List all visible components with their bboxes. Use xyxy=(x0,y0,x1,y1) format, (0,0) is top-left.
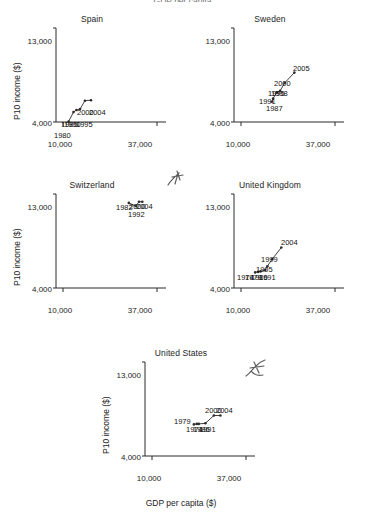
axis-label-x: GDP per capita ($) xyxy=(101,498,261,508)
x-tick-right-switzerland: 37,000 xyxy=(117,306,163,315)
y-tick-top-switzerland: 13,000 xyxy=(6,203,52,212)
y-tick-top-spain: 13,000 xyxy=(6,37,52,46)
y-tick-top-us: 13,000 xyxy=(95,371,141,380)
point-label-sweden-1991: 1991 xyxy=(259,98,276,106)
axis-label-y-row3: P10 income ($) xyxy=(101,396,111,454)
point-label-us-1979: 1979 xyxy=(174,418,191,426)
x-tick-right-uk: 37,000 xyxy=(295,306,341,315)
y-tick-top-uk: 13,000 xyxy=(184,203,230,212)
x-tick-left-sweden: 10,000 xyxy=(215,140,261,149)
figure-scatter-matrix: GDP per capita Spain 13,000 4,000 10,000… xyxy=(0,0,365,520)
plot-area-uk: 1974 1979 1986 1991 1995 1999 2004 xyxy=(234,194,344,298)
y-tick-bottom-sweden: 4,000 xyxy=(184,119,230,128)
point-label-uk-1999: 1999 xyxy=(261,256,278,264)
point-label-spain-1980: 1980 xyxy=(54,132,71,140)
panel-spain: Spain 13,000 4,000 10,000 37,000 1980 19… xyxy=(12,14,172,154)
x-tick-right-us: 37,000 xyxy=(206,474,252,483)
y-tick-bottom-spain: 4,000 xyxy=(6,119,52,128)
point-label-sweden-1987: 1987 xyxy=(266,105,283,113)
panel-title-united-states: United States xyxy=(101,348,261,358)
plot-area-spain: 1980 1985 1990 1995 2000 2004 xyxy=(56,28,166,132)
x-tick-right-spain: 37,000 xyxy=(117,140,163,149)
panel-sweden: Sweden 13,000 4,000 10,000 37,000 1987 1… xyxy=(190,14,350,154)
point-label-sweden-1998: 1998 xyxy=(271,90,288,98)
point-label-uk-1991: 1991 xyxy=(259,274,276,282)
y-tick-bottom-uk: 4,000 xyxy=(184,285,230,294)
point-label-spain-2004: 2004 xyxy=(89,109,106,117)
point-label-uk-2004: 2004 xyxy=(281,239,298,247)
plot-area-sweden: 1987 1991 1995 1998 2000 2005 xyxy=(234,28,344,132)
y-tick-bottom-us: 4,000 xyxy=(95,453,141,462)
point-label-uk-1995: 1995 xyxy=(256,266,273,274)
axis-label-y-row2: P10 income ($) xyxy=(12,228,22,286)
panel-title-united-kingdom: United Kingdom xyxy=(190,180,350,190)
point-label-switzerland-1992: 1992 xyxy=(128,211,145,219)
point-label-sweden-2005: 2005 xyxy=(293,65,310,73)
point-label-spain-1995: 1995 xyxy=(76,121,93,129)
point-label-us-2004: 2004 xyxy=(216,407,233,415)
point-label-switzerland-2004: 2004 xyxy=(136,203,153,211)
panel-united-kingdom: United Kingdom 13,000 4,000 10,000 37,00… xyxy=(190,180,350,320)
y-tick-bottom-switzerland: 4,000 xyxy=(6,285,52,294)
x-tick-left-switzerland: 10,000 xyxy=(37,306,83,315)
x-tick-left-us: 10,000 xyxy=(126,474,172,483)
axis-label-y-row1: P10 income ($) xyxy=(12,62,22,120)
handwritten-scribble-annotation-switzerland xyxy=(164,168,188,190)
x-tick-left-spain: 10,000 xyxy=(37,140,83,149)
panel-title-spain: Spain xyxy=(12,14,172,24)
point-label-sweden-2000: 2000 xyxy=(274,80,291,88)
plot-area-switzerland: 1982 1992 2000 2004 xyxy=(56,194,166,298)
plot-area-us: 1974 1986 1991 1979 2000 2004 xyxy=(145,362,255,466)
panel-title-switzerland: Switzerland xyxy=(12,180,172,190)
panel-united-states: United States 13,000 4,000 10,000 37,000… xyxy=(101,348,261,488)
x-tick-left-uk: 10,000 xyxy=(215,306,261,315)
point-label-us-1991: 1991 xyxy=(199,426,216,434)
handwritten-scribble-annotation-united-states xyxy=(243,358,269,382)
clipped-figure-title: GDP per capita xyxy=(0,0,365,2)
x-tick-right-sweden: 37,000 xyxy=(295,140,341,149)
panel-title-sweden: Sweden xyxy=(190,14,350,24)
y-tick-top-sweden: 13,000 xyxy=(184,37,230,46)
panel-switzerland: Switzerland 13,000 4,000 10,000 37,000 1… xyxy=(12,180,172,320)
